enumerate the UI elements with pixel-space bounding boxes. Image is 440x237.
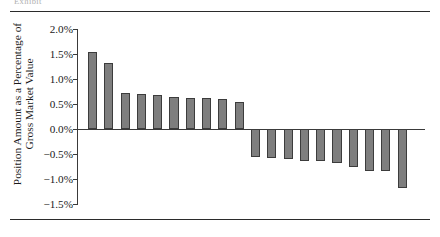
y-axis-tick [73, 204, 78, 205]
chart-bar [186, 98, 195, 130]
chart-bar [300, 129, 309, 161]
y-axis-tick-label: 1.0% [13, 73, 73, 85]
y-axis-tick-label: 1.5% [13, 48, 73, 60]
y-axis-tick-label: −0.5% [13, 148, 73, 160]
chart-bar [121, 93, 130, 130]
y-axis-tick-label: 2.0% [13, 23, 73, 35]
y-axis-tick-label: −1.5% [13, 198, 73, 210]
chart-bar [365, 129, 374, 171]
y-axis-tick-label: −1.0% [13, 173, 73, 185]
caption-remnant: Exhibit [14, 0, 42, 6]
bar-chart-figure: Position Amount as a Percentage of Gross… [0, 11, 440, 219]
chart-bar [104, 63, 113, 130]
rule-bottom [10, 219, 430, 220]
chart-bar [381, 129, 390, 171]
chart-bar [267, 129, 276, 158]
chart-bar [235, 102, 244, 130]
chart-bar [88, 52, 97, 129]
chart-bar [316, 129, 325, 161]
chart-bar [398, 129, 407, 188]
chart-bar [169, 97, 178, 130]
y-axis-tick-label: 0.5% [13, 98, 73, 110]
y-axis-tick-label: 0.0% [13, 123, 73, 135]
chart-bar [251, 129, 260, 157]
chart-bar [153, 95, 162, 129]
chart-bar [202, 98, 211, 129]
chart-bar [349, 129, 358, 167]
chart-bar [137, 94, 146, 130]
plot-area: 2.0%1.5%1.0%0.5%0.0%−0.5%−1.0%−1.5% [77, 29, 425, 204]
chart-bar [218, 99, 227, 129]
chart-bar [332, 129, 341, 163]
bars-layer [77, 29, 425, 204]
chart-bar [284, 129, 293, 159]
